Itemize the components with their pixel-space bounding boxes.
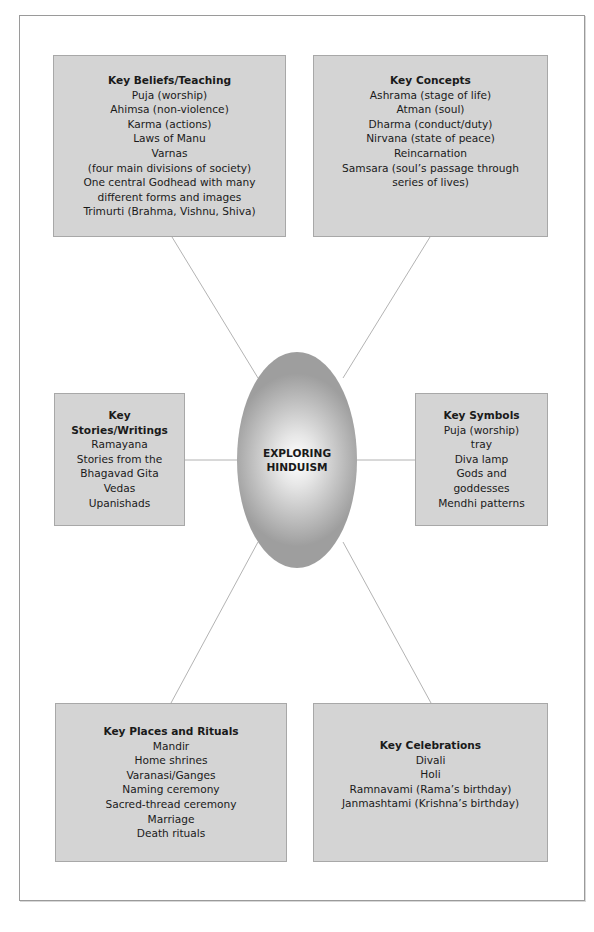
node-title-line2: Stories/Writings bbox=[71, 423, 168, 438]
list-item: Samsara (soul’s passage through bbox=[342, 161, 519, 176]
list-item: Vedas bbox=[104, 481, 136, 496]
hub-title-line1: EXPLORING bbox=[263, 446, 331, 460]
list-item: Ashrama (stage of life) bbox=[370, 88, 491, 103]
list-item: Janmashtami (Krishna’s birthday) bbox=[342, 796, 519, 811]
node-title: Key Beliefs/Teaching bbox=[108, 73, 231, 88]
connector-key-concepts bbox=[343, 237, 430, 378]
list-item: Trimurti (Brahma, Vishnu, Shiva) bbox=[83, 204, 255, 219]
list-item: Divali bbox=[416, 753, 446, 768]
node-key-beliefs: Key Beliefs/Teaching Puja (worship) Ahim… bbox=[53, 55, 286, 237]
list-item: Death rituals bbox=[137, 826, 206, 841]
list-item: Ahimsa (non-violence) bbox=[110, 102, 229, 117]
hub-title-line2: HINDUISM bbox=[263, 460, 331, 474]
list-item: Stories from the bbox=[77, 452, 162, 467]
node-key-celebrations: Key Celebrations Divali Holi Ramnavami (… bbox=[313, 703, 548, 862]
list-item: tray bbox=[471, 437, 492, 452]
list-item: Atman (soul) bbox=[396, 102, 464, 117]
list-item: One central Godhead with many bbox=[83, 175, 255, 190]
list-item: Sacred-thread ceremony bbox=[105, 797, 236, 812]
connector-key-celebrations bbox=[343, 542, 431, 703]
node-key-concepts: Key Concepts Ashrama (stage of life) Atm… bbox=[313, 55, 548, 237]
list-item: Home shrines bbox=[135, 753, 208, 768]
node-key-stories: Key Stories/Writings Ramayana Stories fr… bbox=[54, 393, 185, 526]
list-item: Nirvana (state of peace) bbox=[366, 131, 495, 146]
list-item: Ramnavami (Rama’s birthday) bbox=[350, 782, 512, 797]
list-item: Diva lamp bbox=[455, 452, 509, 467]
list-item: (four main divisions of society) bbox=[88, 161, 251, 176]
list-item: Puja (worship) bbox=[444, 423, 519, 438]
center-hub-ellipse: EXPLORING HINDUISM bbox=[237, 352, 357, 568]
node-title-line1: Key bbox=[108, 408, 130, 423]
list-item: Holi bbox=[420, 767, 440, 782]
list-item: goddesses bbox=[453, 481, 509, 496]
list-item: Karma (actions) bbox=[128, 117, 212, 132]
node-title: Key Concepts bbox=[390, 73, 471, 88]
list-item: Mendhi patterns bbox=[438, 496, 525, 511]
list-item: Mandir bbox=[153, 739, 189, 754]
list-item: Ramayana bbox=[91, 437, 147, 452]
node-key-places: Key Places and Rituals Mandir Home shrin… bbox=[55, 703, 287, 862]
node-title: Key Places and Rituals bbox=[103, 724, 238, 739]
list-item: Laws of Manu bbox=[133, 131, 206, 146]
connector-key-beliefs bbox=[172, 237, 258, 378]
list-item: Gods and bbox=[456, 466, 506, 481]
list-item: Marriage bbox=[148, 812, 195, 827]
node-title: Key Symbols bbox=[443, 408, 519, 423]
node-key-symbols: Key Symbols Puja (worship) tray Diva lam… bbox=[415, 393, 548, 526]
connector-key-places bbox=[171, 542, 258, 703]
list-item: Varanasi/Ganges bbox=[126, 768, 215, 783]
node-title: Key Celebrations bbox=[380, 738, 481, 753]
list-item: different forms and images bbox=[98, 190, 242, 205]
list-item: Naming ceremony bbox=[122, 782, 219, 797]
list-item: Puja (worship) bbox=[132, 88, 207, 103]
list-item: Varnas bbox=[152, 146, 188, 161]
list-item: series of lives) bbox=[392, 175, 469, 190]
list-item: Reincarnation bbox=[394, 146, 467, 161]
list-item: Dharma (conduct/duty) bbox=[369, 117, 493, 132]
list-item: Upanishads bbox=[89, 496, 151, 511]
list-item: Bhagavad Gita bbox=[80, 466, 158, 481]
